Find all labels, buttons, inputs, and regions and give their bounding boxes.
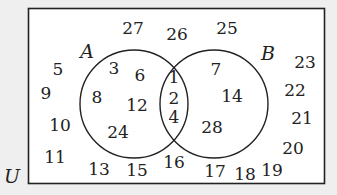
element-number: 12	[126, 97, 148, 114]
element-number: 27	[122, 20, 144, 37]
element-number: 15	[126, 162, 148, 179]
element-number: 2	[169, 90, 180, 107]
element-number: 3	[109, 60, 120, 77]
element-number: 7	[211, 61, 222, 78]
element-number: 6	[135, 67, 146, 84]
element-number: 23	[294, 54, 316, 71]
element-number: 11	[44, 149, 66, 166]
element-number: 25	[216, 20, 238, 37]
element-number: 17	[204, 163, 226, 180]
element-number: 20	[282, 140, 304, 157]
element-number: 10	[49, 117, 71, 134]
element-number: 8	[92, 89, 103, 106]
element-number: 18	[234, 166, 256, 183]
element-number: 5	[53, 61, 64, 78]
element-number: 19	[261, 162, 283, 179]
element-number: 9	[41, 85, 52, 102]
universe-label: U	[4, 167, 20, 186]
element-number: 14	[221, 88, 243, 105]
element-number: 13	[88, 161, 110, 178]
element-number: 16	[163, 154, 185, 171]
element-number: 1	[169, 69, 180, 86]
element-number: 4	[169, 109, 180, 126]
element-number: 21	[291, 110, 313, 127]
set-a-label: A	[80, 42, 94, 61]
element-number: 24	[107, 124, 129, 141]
element-number: 28	[201, 119, 223, 136]
set-b-label: B	[261, 44, 275, 63]
element-number: 22	[284, 82, 306, 99]
element-number: 26	[166, 26, 188, 43]
